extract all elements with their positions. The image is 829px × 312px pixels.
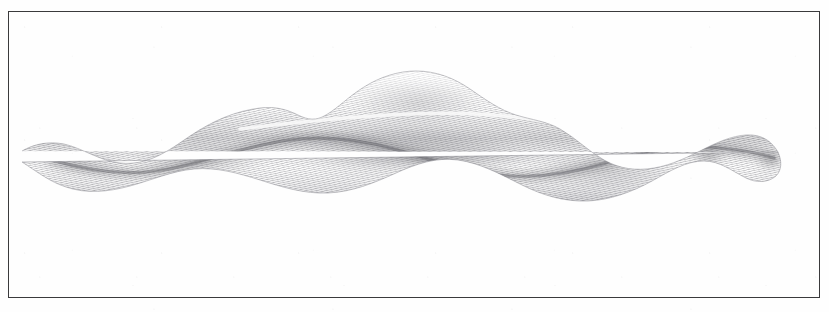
engraving-plate xyxy=(0,0,829,312)
figure-area xyxy=(8,11,820,298)
specimen-body-group xyxy=(18,71,788,201)
specimen-illustration xyxy=(8,11,820,298)
